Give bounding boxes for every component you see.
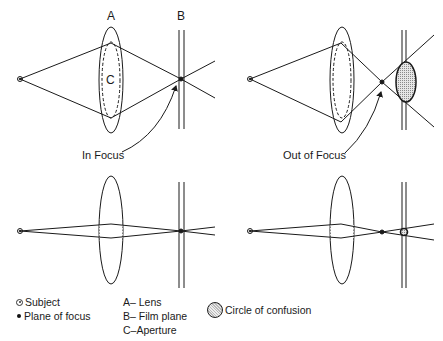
label-aperture-C: C <box>106 74 115 86</box>
panel-top-right-out-of-focus <box>248 27 435 153</box>
circle-of-confusion <box>396 62 416 102</box>
panel-top-left-in-focus <box>18 27 216 152</box>
plane-of-focus-dot-icon <box>179 229 183 233</box>
ray-lower <box>20 231 215 238</box>
circle-of-confusion-small <box>401 229 408 236</box>
in-focus-arrow <box>122 86 176 152</box>
plane-of-focus-dot-icon <box>380 80 384 84</box>
ray-lower <box>20 79 215 118</box>
plane-of-focus-dot-icon <box>179 77 183 81</box>
legend-plane-of-focus-label: Plane of focus <box>24 310 91 322</box>
lens <box>330 176 354 284</box>
legend-B-film-plane: B– Film plane <box>123 310 187 322</box>
optics-diagram <box>0 0 443 341</box>
lens <box>99 176 123 284</box>
panel-bottom-left-in-focus-small-aperture <box>18 176 216 288</box>
legend-subject-label: Subject <box>25 296 60 308</box>
legend-plane-of-focus: Plane of focus <box>17 310 91 322</box>
label-film-plane-B: B <box>177 10 185 22</box>
aperture <box>333 42 351 118</box>
legend-A-lens: A– Lens <box>123 296 162 308</box>
caption-out-of-focus: Out of Focus <box>283 149 346 161</box>
ray-upper <box>20 43 215 79</box>
caption-in-focus: In Focus <box>82 149 124 161</box>
legend-subject: Subject <box>16 296 60 308</box>
plane-of-focus-dot-icon <box>380 230 384 234</box>
ray-upper <box>20 224 215 231</box>
subject-icon <box>16 299 23 306</box>
panel-bottom-right-out-of-focus-small-aperture <box>248 176 435 288</box>
subject-icon-center <box>19 78 21 80</box>
plane-of-focus-dot-icon <box>17 314 21 318</box>
label-lens-A: A <box>107 10 115 22</box>
circle-of-confusion-icon <box>207 302 223 318</box>
legend-circle-of-confusion: Circle of confusion <box>207 302 311 318</box>
lens <box>330 27 354 133</box>
legend-C-aperture: C–Aperture <box>123 324 177 336</box>
legend-circle-of-confusion-label: Circle of confusion <box>225 304 311 316</box>
